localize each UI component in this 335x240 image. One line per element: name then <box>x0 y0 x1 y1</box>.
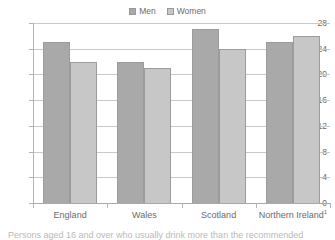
grouped-bar-chart: Men Women 0481216202428 EnglandWalesScot… <box>0 0 335 240</box>
category-axis-ticks <box>33 203 330 208</box>
clipped-caption-text: Persons aged 16 and over who usually dri… <box>8 231 328 240</box>
bar-group <box>107 23 181 203</box>
bar-group <box>256 23 330 203</box>
category-tick <box>33 203 34 208</box>
legend-swatch-men-icon <box>129 8 136 15</box>
bar <box>117 62 144 203</box>
bar <box>43 42 70 203</box>
bar <box>192 29 219 203</box>
legend-swatch-women-icon <box>167 8 174 15</box>
bar-group <box>33 23 107 203</box>
category-tick <box>107 203 108 208</box>
category-label: England <box>33 210 107 221</box>
bar <box>266 42 293 203</box>
legend-label-women: Women <box>177 7 206 16</box>
bar <box>70 62 97 203</box>
category-label: Northern Ireland1 <box>256 210 330 221</box>
bar-group <box>182 23 256 203</box>
clipped-caption: Persons aged 16 and over who usually dri… <box>8 231 328 240</box>
bar <box>144 68 171 203</box>
bar <box>219 49 246 203</box>
category-axis-labels: EnglandWalesScotlandNorthern Ireland1 <box>33 210 330 221</box>
bar-groups <box>33 23 330 203</box>
footnote-marker: 1 <box>324 209 327 215</box>
legend-entry-men: Men <box>129 7 156 16</box>
category-tick <box>330 203 331 208</box>
category-label: Scotland <box>182 210 256 221</box>
bar <box>293 36 320 203</box>
category-tick <box>256 203 257 208</box>
category-tick <box>182 203 183 208</box>
legend-label-men: Men <box>139 7 156 16</box>
legend-entry-women: Women <box>167 7 206 16</box>
category-label: Wales <box>107 210 181 221</box>
chart-legend: Men Women <box>0 4 335 18</box>
